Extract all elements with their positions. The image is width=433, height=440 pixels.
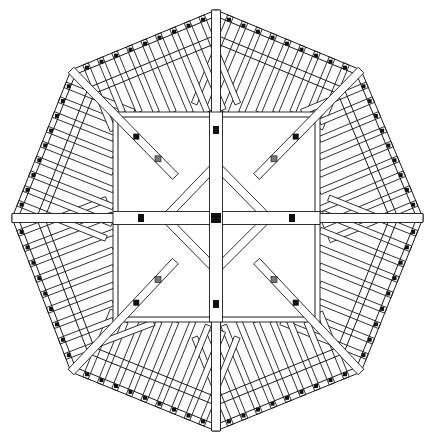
roof-framing-diagram [0,0,433,440]
framing-plan-drawing [0,0,433,440]
